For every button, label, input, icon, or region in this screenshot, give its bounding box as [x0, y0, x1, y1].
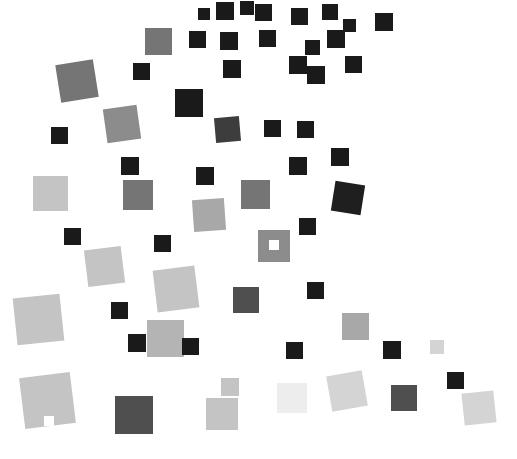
square-marker — [145, 28, 172, 55]
square-marker — [44, 416, 54, 426]
square-marker — [400, 210, 409, 219]
square-marker — [286, 342, 303, 359]
square-marker — [33, 176, 68, 211]
square-marker — [391, 385, 417, 411]
square-marker — [223, 60, 241, 78]
square-marker — [331, 148, 349, 166]
square-marker — [64, 228, 81, 245]
square-marker — [259, 30, 276, 47]
square-marker — [264, 120, 281, 137]
square-marker — [103, 105, 141, 143]
square-marker — [430, 340, 444, 354]
square-marker — [291, 8, 308, 25]
square-marker — [233, 287, 259, 313]
square-marker — [133, 63, 150, 80]
square-marker — [175, 89, 203, 117]
square-marker — [220, 32, 238, 50]
square-marker — [327, 30, 345, 48]
square-marker — [196, 167, 214, 185]
square-marker — [192, 198, 226, 232]
square-marker — [241, 180, 270, 209]
square-marker — [486, 95, 496, 105]
square-marker — [198, 8, 210, 20]
square-marker — [216, 2, 234, 20]
square-marker — [299, 218, 316, 235]
square-marker — [182, 338, 199, 355]
square-marker — [250, 60, 259, 69]
square-marker — [383, 341, 401, 359]
square-marker — [461, 390, 496, 425]
square-marker — [128, 334, 146, 352]
square-marker — [322, 4, 338, 20]
square-marker — [307, 282, 324, 299]
square-marker — [345, 56, 362, 73]
square-marker — [420, 120, 429, 129]
square-marker — [305, 40, 320, 55]
square-marker — [297, 121, 314, 138]
square-marker — [330, 84, 339, 93]
square-marker — [51, 127, 68, 144]
square-marker — [123, 180, 153, 210]
square-marker — [447, 372, 464, 389]
square-marker — [326, 370, 368, 412]
square-marker — [55, 59, 98, 102]
square-marker — [189, 31, 206, 48]
square-marker — [368, 292, 383, 307]
square-marker — [343, 19, 356, 32]
square-marker — [94, 330, 103, 339]
square-marker — [342, 313, 369, 340]
artwork-canvas — [0, 0, 517, 459]
square-marker — [221, 378, 239, 396]
square-marker — [166, 133, 175, 142]
square-marker — [206, 398, 238, 430]
square-marker — [84, 246, 125, 287]
square-marker — [269, 240, 279, 250]
square-marker — [180, 430, 189, 439]
square-marker — [154, 235, 171, 252]
square-marker — [331, 181, 365, 215]
square-marker — [214, 116, 241, 143]
square-marker — [240, 1, 254, 15]
square-marker — [375, 13, 393, 31]
square-marker — [255, 4, 272, 21]
square-marker — [115, 396, 153, 434]
square-marker — [13, 294, 65, 346]
square-marker — [147, 320, 184, 357]
square-marker — [111, 302, 128, 319]
square-marker — [289, 157, 307, 175]
square-marker — [277, 383, 307, 413]
square-marker — [121, 157, 139, 175]
square-marker — [153, 266, 200, 313]
square-marker — [307, 66, 325, 84]
square-marker — [289, 56, 307, 74]
